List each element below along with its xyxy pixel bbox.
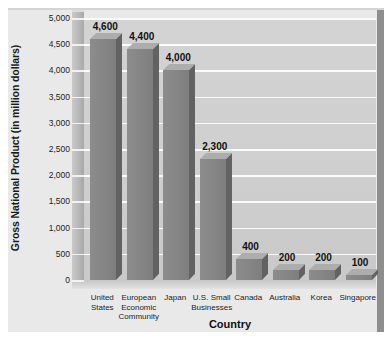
y-axis-tick-label: 3,000 [24,118,70,128]
bar-front-face [90,39,116,280]
bar-front-face [309,270,335,280]
y-axis-tick-label: 1,500 [24,196,70,206]
y-axis-tick-label: 5,000 [24,13,70,23]
plot-area: 4,6004,4004,0002,300400200200100 [84,18,376,280]
bar-side-face [153,43,159,280]
chart-top-edge [8,8,384,10]
y-axis-title: Gross National Product (in million dolla… [6,18,24,278]
bar: 4,600 [90,39,116,280]
y-axis-tick-mark [72,149,84,151]
bar: 2,300 [200,159,226,280]
y-axis-tick-mark [72,18,84,20]
bar-front-face [273,270,299,280]
bar: 400 [236,259,262,280]
bar-top-face [346,269,378,275]
y-axis-tick-labels: 5,0004,5004,0003,5003,0002,5002,0001,500… [24,18,70,280]
bar: 200 [309,270,335,280]
bar-side-face [226,153,232,280]
y-axis-tick-label: 1,000 [24,223,70,233]
bar: 200 [273,270,299,280]
gridline [84,18,376,20]
y-axis-tick-mark [72,97,84,99]
bar-top-face [273,264,305,270]
y-axis-tick-mark [72,70,84,72]
y-axis-tick-label: 2,500 [24,144,70,154]
bar-front-face [200,159,226,280]
y-axis-tick-mark [72,201,84,203]
bar: 4,000 [163,70,189,280]
y-axis-tick-mark [72,254,84,256]
bar-value-label: 4,400 [129,31,154,42]
chart-right-wall [377,10,384,332]
y-axis-tick-mark [72,280,84,282]
y-axis-tick-mark [72,123,84,125]
y-axis-tick-mark [72,175,84,177]
x-axis-category-label: Singapore [336,293,381,303]
bar-side-face [189,64,195,280]
y-axis-tick-mark [72,44,84,46]
gridline [84,44,376,46]
y-axis-tick-label: 500 [24,249,70,259]
bar-value-label: 400 [242,241,259,252]
bar-front-face [236,259,262,280]
bar-value-label: 200 [279,252,296,263]
bar: 4,400 [127,49,153,280]
bar-value-label: 4,600 [93,21,118,32]
plot-floor [72,280,376,289]
y-axis-tick-label: 3,500 [24,92,70,102]
bar-value-label: 2,300 [202,141,227,152]
bar-front-face [163,70,189,280]
bar-front-face [127,49,153,280]
y-axis-tick-label: 0 [24,275,70,285]
bar-value-label: 4,000 [166,52,191,63]
y-axis-tick-label: 4,500 [24,39,70,49]
bar-chart: Gross National Product (in million dolla… [8,10,384,332]
bar-side-face [116,33,122,280]
bar-value-label: 200 [315,252,332,263]
y-axis-tick-mark [72,228,84,230]
bar-value-label: 100 [352,257,369,268]
y-axis-tick-label: 4,000 [24,65,70,75]
y-axis-tick-label: 2,000 [24,170,70,180]
